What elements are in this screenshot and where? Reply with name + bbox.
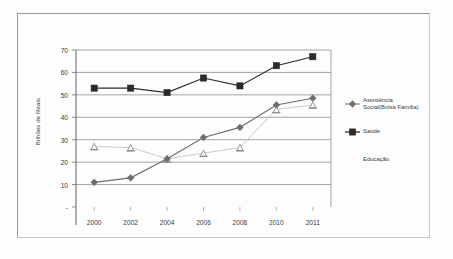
x-axis-tick-label: 2006 — [189, 219, 219, 226]
series-2 — [90, 102, 317, 162]
x-axis-tick-label: 2008 — [225, 219, 255, 226]
data-point-marker — [128, 85, 134, 91]
legend-marker-swatch — [349, 101, 356, 108]
data-point-marker — [200, 75, 206, 81]
data-point-marker — [164, 90, 170, 96]
data-point-marker — [91, 85, 97, 91]
x-axis-tick-label: 2010 — [261, 219, 291, 226]
legend-item-label: Saúde — [363, 128, 380, 135]
x-axis-tick-label: 2004 — [152, 219, 182, 226]
y-axis-tick-label: 40 — [48, 114, 68, 121]
data-point-marker — [237, 83, 243, 89]
series-1 — [91, 54, 316, 96]
y-axis-tick-label: 70 — [48, 47, 68, 54]
x-axis-tick-label: 2011 — [298, 219, 328, 226]
data-point-marker — [309, 95, 316, 102]
data-point-marker — [127, 174, 134, 181]
data-point-marker — [273, 102, 280, 109]
y-axis-tick-label: 30 — [48, 136, 68, 143]
data-point-marker — [273, 63, 279, 69]
data-point-marker — [237, 124, 244, 131]
y-axis-tick-label: 10 — [48, 181, 68, 188]
legend-item-label: Educação — [363, 156, 389, 163]
y-axis-tick-label: 60 — [48, 69, 68, 76]
y-axis-tick-label: 50 — [48, 91, 68, 98]
legend-marker-swatch — [349, 129, 355, 135]
data-point-marker — [310, 54, 316, 60]
y-axis-tick-label: 20 — [48, 159, 68, 166]
legend-item-label: Assistência Social(Bolsa Família) — [363, 97, 419, 112]
x-axis-tick-label: 2002 — [116, 219, 146, 226]
x-axis-tick-label: 2000 — [79, 219, 109, 226]
y-axis-tick-label: - — [48, 204, 68, 211]
